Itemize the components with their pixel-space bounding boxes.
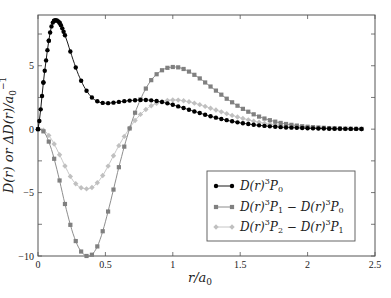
x-tick-label: 1.5 <box>234 259 247 270</box>
x-tick-label: 0 <box>36 259 41 270</box>
x-tick-label: 0.5 <box>99 259 112 270</box>
y-tick-label: −5 <box>23 187 34 198</box>
svg-text:D(r) or ΔD(r)/a0−1: D(r) or ΔD(r)/a0−1 <box>0 77 18 194</box>
y-tick-label: −10 <box>18 251 34 262</box>
y-tick-label: 5 <box>29 60 34 71</box>
chart: 00.511.522.5−10−505 D(r)3P0D(r)3P1 − D(r… <box>0 0 391 298</box>
legend-label: D(r)3P0 <box>239 177 283 194</box>
svg-text:r/a0: r/a0 <box>188 270 212 287</box>
x-tick-label: 1 <box>170 259 175 270</box>
legend: D(r)3P0D(r)3P1 − D(r)3P0D(r)3P2 − D(r)3P… <box>207 171 355 241</box>
y-axis-title: D(r) or ΔD(r)/a0−1 <box>0 77 18 194</box>
y-tick-label: 0 <box>29 124 34 135</box>
x-tick-label: 2 <box>305 259 310 270</box>
x-tick-label: 2.5 <box>369 259 382 270</box>
x-axis-title: r/a0 <box>188 270 212 287</box>
